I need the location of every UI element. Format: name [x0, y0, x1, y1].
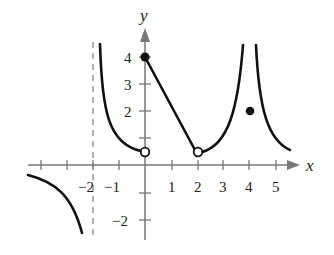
open-point-2-1	[194, 148, 203, 157]
function-curves	[28, 44, 290, 233]
x-tick-label: 1	[168, 179, 176, 195]
y-tick-label: 4	[124, 50, 132, 66]
x-axis-arrow-icon	[287, 160, 300, 170]
y-tick-label: 3	[124, 77, 132, 93]
x-tick-label: 2	[194, 179, 202, 195]
branch-2-to-4	[202, 45, 243, 152]
function-graph: −2 −1 1 2 3 4 5 4 3 2 −2 x y	[0, 0, 334, 255]
x-tick-label: −2	[78, 179, 94, 195]
filled-point-0-4	[141, 53, 150, 62]
x-axis-label: x	[305, 156, 314, 175]
middle-branch	[100, 44, 141, 151]
x-tick-label: −1	[104, 179, 120, 195]
y-axis-arrow-icon	[140, 28, 150, 42]
right-branch	[256, 45, 290, 150]
left-branch	[28, 175, 82, 233]
y-tick-label: −2	[112, 213, 128, 229]
line-segment	[145, 57, 195, 150]
filled-point-4-2	[246, 107, 255, 116]
x-tick-label: 4	[245, 179, 253, 195]
y-tick-label: 2	[124, 104, 132, 120]
x-tick-label: 5	[272, 179, 280, 195]
open-point-0-1	[141, 148, 150, 157]
y-axis-label: y	[138, 6, 148, 25]
x-tick-label: 3	[219, 179, 227, 195]
